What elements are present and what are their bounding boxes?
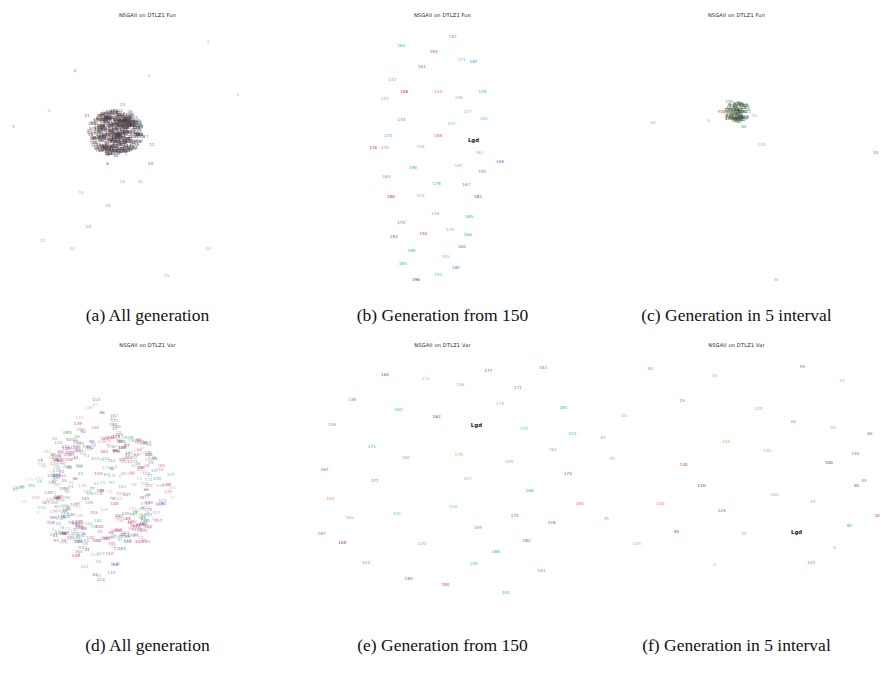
data-point-label: 30 xyxy=(741,531,746,536)
data-point-label: 184 xyxy=(390,234,398,239)
data-point-label: 178 xyxy=(433,181,441,186)
data-point-label: 183 xyxy=(399,262,407,267)
data-point-label: 163 xyxy=(100,450,108,455)
data-point-label: 17 xyxy=(143,135,148,140)
panel-f-plot-area: 9550351525120406555608711513014570140100… xyxy=(590,352,883,617)
data-point-label: 69 xyxy=(97,530,102,535)
data-point-label: 156 xyxy=(416,144,424,149)
data-point-label: 86 xyxy=(125,535,130,540)
data-point-label: 190 xyxy=(66,536,74,541)
data-point-label: 20 xyxy=(874,514,879,519)
panel-c-title: NSGAII on DTLZ1 Fun xyxy=(590,12,883,19)
panel-a-title: NSGAII on DTLZ1 Fun xyxy=(0,12,295,19)
data-point-label: 175 xyxy=(368,445,376,450)
data-point-label: 172 xyxy=(511,514,519,519)
data-point-label: 13 xyxy=(120,180,125,185)
panel-a-all-generation-fun: NSGAII on DTLZ1 Fun 17919179127173172173… xyxy=(0,12,295,287)
data-point-label: 171 xyxy=(371,478,379,483)
data-point-label: 185 xyxy=(465,214,473,219)
cluster-point: 102 xyxy=(100,118,108,123)
data-point-label: 179 xyxy=(455,453,463,458)
cluster-point: 75 xyxy=(732,118,737,123)
data-point-label: 90 xyxy=(674,530,679,535)
data-point-label: 188 xyxy=(102,457,110,462)
data-point-label: 15 xyxy=(839,379,844,384)
data-point-label: 29 xyxy=(166,483,171,488)
data-point-label: 163 xyxy=(394,408,402,413)
data-point-label: 160 xyxy=(402,456,410,461)
data-point-label: 117 xyxy=(152,511,160,516)
data-point-label: 41 xyxy=(78,472,83,477)
data-point-label: 2 xyxy=(74,69,77,74)
data-point-label: 100 xyxy=(825,461,833,466)
data-point-label: 75 xyxy=(61,515,66,520)
data-point-label: 25 xyxy=(164,274,169,279)
data-point-label: 124 xyxy=(97,577,105,582)
caption-e: (e) Generation from 150 xyxy=(295,635,590,656)
data-point-label: 78 xyxy=(139,496,144,501)
data-point-label: 110 xyxy=(697,484,705,489)
data-point-label: 170 xyxy=(153,477,161,482)
data-point-label: 75 xyxy=(129,513,134,518)
data-point-label: 154 xyxy=(449,505,457,510)
data-point-label: 10 xyxy=(148,161,153,166)
data-point-label: 25 xyxy=(100,481,105,486)
data-point-label: 145 xyxy=(81,496,89,501)
data-point-label: 15 xyxy=(62,479,67,484)
data-point-label: 165 xyxy=(346,515,354,520)
data-point-label: 157 xyxy=(464,477,472,482)
data-point-label: 34 xyxy=(84,547,89,552)
data-point-label: 153 xyxy=(416,193,424,198)
data-point-label: 188 xyxy=(434,134,442,139)
caption-b: (b) Generation from 150 xyxy=(295,305,590,326)
data-point-label: 50 xyxy=(52,437,57,442)
data-point-label: 157 xyxy=(455,164,463,169)
data-point-label: 32 xyxy=(134,509,139,514)
data-point-label: 127 xyxy=(167,473,175,478)
cluster-point: 4 xyxy=(725,113,728,118)
data-point-label: 10 xyxy=(810,499,815,504)
data-point-label: 152 xyxy=(94,519,102,524)
data-point-label: 37 xyxy=(71,457,76,462)
data-point-label: 172 xyxy=(144,478,152,483)
data-point-label: 180 xyxy=(405,576,413,581)
data-point-label: 105 xyxy=(771,493,779,498)
data-point-label: 192 xyxy=(27,483,35,488)
data-point-label: 167 xyxy=(462,183,470,188)
data-point-label: 157 xyxy=(154,519,162,524)
panel-b-title: NSGAII on DTLZ1 Fun xyxy=(295,12,590,19)
data-point-label: 133 xyxy=(107,571,115,576)
data-point-label: 71 xyxy=(139,507,144,512)
data-point-label: 32 xyxy=(129,471,134,476)
data-point-label: 188 xyxy=(349,397,357,402)
cluster-point: 73 xyxy=(107,123,112,128)
data-point-label: 25 xyxy=(751,114,756,119)
legend-marker: Lgd xyxy=(791,530,802,535)
data-point-label: 43 xyxy=(170,496,175,501)
data-point-label: 187 xyxy=(318,531,326,536)
data-point-label: 5 xyxy=(713,563,716,568)
data-point-label: 7 xyxy=(90,122,93,127)
panel-f-title: NSGAII on DTLZ1 Var xyxy=(590,342,883,349)
data-point-label: 168 xyxy=(400,90,408,95)
data-point-label: 5 xyxy=(707,119,710,124)
data-point-label: 111 xyxy=(422,376,430,381)
data-point-label: 63 xyxy=(93,402,98,407)
data-point-label: 13 xyxy=(110,458,115,463)
data-point-label: 45 xyxy=(650,120,655,125)
data-point-label: 135 xyxy=(633,542,641,547)
data-point-label: 6 xyxy=(78,545,81,550)
data-point-label: 19 xyxy=(137,126,142,131)
data-point-label: 162 xyxy=(475,151,483,156)
data-point-label: 158 xyxy=(328,423,336,428)
data-point-label: 172 xyxy=(388,78,396,83)
data-point-label: 60 xyxy=(741,124,746,129)
data-point-label: 40 xyxy=(109,467,114,472)
data-point-label: 40 xyxy=(621,413,626,418)
data-point-label: 41 xyxy=(145,519,150,524)
data-point-label: 18 xyxy=(105,204,110,209)
data-point-label: 46 xyxy=(146,526,151,531)
data-point-label: 125 xyxy=(718,509,726,514)
data-point-label: 40 xyxy=(120,472,125,477)
data-point-label: 177 xyxy=(484,368,492,373)
